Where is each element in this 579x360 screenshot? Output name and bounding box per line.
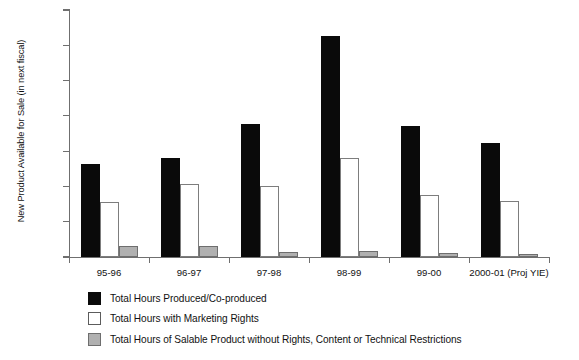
bar-produced [241, 124, 260, 257]
y-axis-tick [63, 9, 69, 10]
chart-legend: Total Hours Produced/Co-producedTotal Ho… [88, 288, 558, 350]
legend-item: Total Hours of Salable Product without R… [88, 329, 558, 350]
bar-salable [279, 252, 298, 257]
x-axis-tick [309, 257, 310, 263]
x-axis-tick [389, 257, 390, 263]
x-axis-tick-label: 99-00 [417, 267, 442, 278]
legend-label: Total Hours with Marketing Rights [110, 313, 259, 324]
y-axis-tick [63, 151, 69, 152]
x-axis-tick [469, 257, 470, 263]
bar-produced [321, 36, 340, 257]
bar-produced [401, 126, 420, 257]
y-axis-tick [63, 80, 69, 81]
x-axis-tick [69, 257, 70, 263]
x-axis-tick [149, 257, 150, 263]
bar-rights [500, 201, 519, 257]
bar-salable [519, 254, 538, 257]
bar-rights [180, 184, 199, 257]
legend-label: Total Hours of Salable Product without R… [110, 334, 462, 345]
bar-salable [439, 253, 458, 257]
bar-produced [81, 164, 100, 257]
legend-label: Total Hours Produced/Co-produced [110, 293, 267, 304]
bar-produced [161, 158, 180, 257]
bar-rights [420, 195, 439, 257]
legend-swatch-rights [88, 312, 101, 325]
x-axis-tick-label: 96-97 [177, 267, 202, 278]
bar-salable [359, 251, 378, 257]
y-axis-tick [63, 186, 69, 187]
y-axis-title: New Product Available for Sale (in next … [16, 6, 26, 256]
legend-item: Total Hours with Marketing Rights [88, 309, 558, 330]
y-axis-tick [63, 115, 69, 116]
bar-rights [100, 202, 119, 257]
x-axis-tick-label: 98-99 [337, 267, 362, 278]
x-axis-tick-label: 2000-01 (Proj YIE) [469, 267, 548, 278]
legend-item: Total Hours Produced/Co-produced [88, 288, 558, 309]
bar-rights [340, 158, 359, 257]
bar-salable [199, 246, 218, 257]
x-axis-tick-label: 97-98 [257, 267, 282, 278]
y-axis-tick [63, 45, 69, 46]
bar-produced [481, 143, 500, 257]
y-axis-tick [63, 221, 69, 222]
bar-chart: New Product Available for Sale (in next … [0, 0, 579, 360]
legend-swatch-salable [88, 333, 101, 346]
bar-salable [119, 246, 138, 257]
bar-rights [260, 186, 279, 257]
plot-area: 1400.01200.01000.0800.0600.0400.0200.00.… [69, 10, 549, 257]
x-axis-tick-label: 95-96 [97, 267, 122, 278]
x-axis-tick [549, 257, 550, 263]
x-axis-tick [229, 257, 230, 263]
legend-swatch-produced [88, 292, 101, 305]
